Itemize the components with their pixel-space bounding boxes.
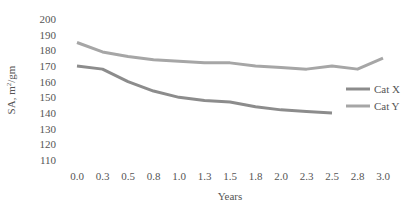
x-axis-label: Years [218, 190, 243, 202]
series-line-cat-y [77, 43, 383, 70]
x-tick-label: 1.0 [172, 170, 186, 182]
x-tick-label: 2.0 [274, 170, 288, 182]
x-tick-label: 1.5 [223, 170, 237, 182]
legend-label: Cat Y [374, 100, 400, 112]
y-tick-label: 150 [40, 91, 57, 103]
x-tick-label: 2.3 [300, 170, 314, 182]
x-tick-label: 0.8 [147, 170, 161, 182]
y-tick-label: 110 [40, 154, 57, 166]
y-tick-label: 190 [40, 29, 57, 41]
y-tick-label: 120 [40, 138, 57, 150]
x-tick-label: 1.3 [198, 170, 212, 182]
x-tick-label: 0.0 [70, 170, 84, 182]
y-tick-label: 170 [40, 60, 57, 72]
y-tick-label: 140 [40, 107, 57, 119]
y-tick-label: 160 [40, 76, 57, 88]
y-tick-label: 200 [40, 13, 57, 25]
y-axis-ticks: 110120130140150160170180190200 [40, 13, 57, 166]
x-tick-label: 1.8 [249, 170, 263, 182]
x-tick-label: 2.5 [325, 170, 339, 182]
x-tick-label: 3.0 [376, 170, 390, 182]
line-chart: 110120130140150160170180190200 0.00.30.5… [0, 0, 418, 208]
series-line-cat-x [77, 66, 332, 113]
x-tick-label: 0.3 [96, 170, 110, 182]
x-tick-label: 0.5 [121, 170, 135, 182]
y-tick-label: 180 [40, 44, 57, 56]
y-axis-label: SA, m2/gm [5, 65, 17, 114]
legend: Cat XCat Y [346, 83, 400, 112]
legend-label: Cat X [374, 83, 400, 95]
series-lines [77, 43, 383, 114]
y-tick-label: 130 [40, 123, 57, 135]
x-axis-ticks: 0.00.30.50.81.01.31.51.82.02.32.52.83.0 [70, 170, 390, 182]
x-tick-label: 2.8 [351, 170, 365, 182]
chart-canvas: 110120130140150160170180190200 0.00.30.5… [0, 0, 418, 208]
